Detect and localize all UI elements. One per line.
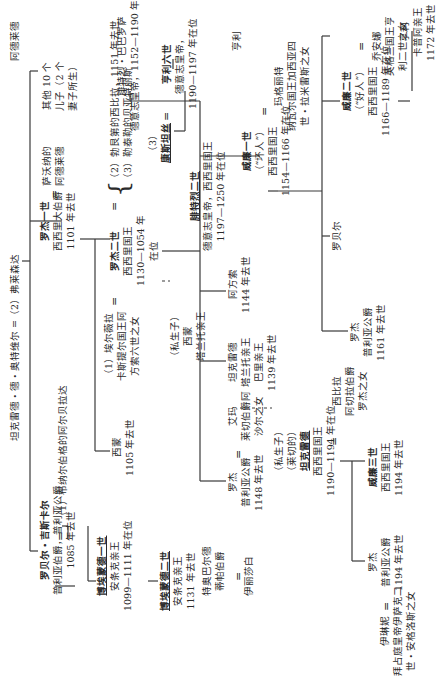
- node-roger-1161: 罗杰 普利亚公爵 1161 年去世: [348, 304, 387, 361]
- node-elvira: （1）埃尔薇拉 卡斯提尔国王阿 方索六世之女: [102, 311, 141, 381]
- roger1161-name: 罗杰: [348, 304, 361, 361]
- william2-epithet: （“好人”）: [353, 45, 366, 136]
- william2-name: 威廉二世: [340, 45, 353, 136]
- constance-name: 康斯坦丝: [159, 123, 172, 163]
- node-robert: 罗贝尔: [330, 221, 343, 251]
- roger1148-name: 罗杰: [226, 454, 239, 511]
- elvira-line2: 卡斯提尔国王阿: [115, 311, 128, 381]
- sibylla-line2: 阿切拉伯爵: [343, 366, 356, 416]
- elvira-name: （1）埃尔薇拉: [102, 311, 115, 381]
- frederick2-name: 腓特烈二世: [188, 141, 201, 251]
- bohemond2-title: 安条克亲王: [171, 551, 184, 611]
- barbarossa-name: 腓特烈・巴巴罗萨: [115, 0, 128, 131]
- node-elizabeth: 伊丽莎白: [242, 556, 255, 596]
- node-sibylla: 西比拉 阿切拉伯爵 罗杰之女: [330, 366, 369, 416]
- node-henry-top: 亨利: [230, 31, 243, 51]
- irene-line3: 世・安格洛斯之女: [404, 586, 417, 676]
- marriage-sign: =: [355, 42, 368, 51]
- node-simon-illegitimate: （私生子） 西蒙 塔兰托亲王: [168, 311, 207, 361]
- simon-illeg-name: 西蒙: [181, 311, 194, 361]
- node-tancred-lecce: （私生子） （莱切的） 坦克雷德 西西里国王 1190—1194 年在位: [272, 405, 337, 496]
- node-roger2: 罗杰二世 西西里国王 1130—1054 年 在位: [108, 215, 160, 286]
- tancred-lecce-note1: （私生子）: [272, 405, 285, 496]
- other-sons-line1: 其他 10 个: [40, 61, 53, 111]
- node-alberada: （1）布纳尔伯格的阿尔贝拉达: [56, 385, 69, 521]
- alfonso-name: 阿方索: [226, 256, 239, 313]
- roger1148-death: 1148 年去世: [252, 454, 265, 511]
- william3-title: 西西里国王: [379, 439, 392, 496]
- bohemond2-name: 博埃蒙德二世: [158, 551, 171, 611]
- marriage-sign: =: [108, 202, 121, 211]
- node-roger1: 罗杰一世 西西里大伯爵 1101 年去世: [38, 191, 77, 251]
- alberada-label: （1）布纳尔伯格的阿尔贝拉达: [56, 385, 69, 521]
- sibylla-name: 西比拉: [330, 366, 343, 416]
- roger1194-title: 普利亚公爵: [379, 534, 392, 591]
- bohemond1-title: 安条克亲王: [108, 520, 121, 611]
- william1-epithet: （“坏人”）: [253, 105, 266, 196]
- roger1161-death: 1161 年去世: [374, 304, 387, 361]
- bohemond2-death: 1131 年去世: [184, 551, 197, 611]
- node-other-sons: 其他 10 个 儿子（2 个 妻子所生）: [40, 61, 79, 111]
- emma-line3: 沙尔之女: [252, 391, 265, 441]
- william3-name: 威廉三世: [366, 439, 379, 496]
- node-margaret: 玛格丽特 纳瓦尔国王加西亚四 世・拉米雷斯之女: [272, 41, 311, 131]
- simon-illeg-note: （私生子）: [168, 311, 181, 361]
- node-bohemond1: 博埃蒙德一世 安条克亲王 1099—1111 年在位: [95, 520, 134, 611]
- node-irene: 伊琳妮 拜占庭皇帝伊萨克二 世・安格洛斯之女: [378, 586, 417, 676]
- marriage-sign: =: [108, 297, 121, 306]
- roger1-death: 1101 年去世: [64, 191, 77, 251]
- node-roger-1194: 罗杰 普利亚公爵 1194 年去世: [366, 534, 405, 591]
- theobald-title: 蒂帕伯爵: [213, 546, 226, 596]
- constance-note: （3）: [146, 123, 159, 163]
- tancred-taranto-title2: 巴里亲王: [252, 334, 265, 391]
- irene-line2: 拜占庭皇帝伊萨克二: [391, 586, 404, 676]
- adelaide-line2: 阿德莱德: [53, 146, 66, 186]
- tancred-taranto-name: 坦克雷德: [226, 334, 239, 391]
- roger2-reign2: 在位: [147, 215, 160, 286]
- tancred-taranto-title: 塔兰托亲王: [239, 334, 252, 391]
- joanna-line2: 英格兰国王亨: [383, 16, 396, 76]
- irene-name: 伊琳妮: [378, 586, 391, 676]
- margaret-name: 玛格丽特: [272, 41, 285, 131]
- tancred-lecce-title: 西西里国王: [311, 405, 324, 496]
- henry-name: 亨利: [230, 31, 243, 51]
- tancred-lecce-name: 坦克雷德: [298, 405, 311, 496]
- frederick2-title: 德意志皇帝，西西里国王: [201, 141, 214, 251]
- henry-capua-death: 1172 年去世: [424, 4, 437, 61]
- emma-name: 艾玛: [226, 391, 239, 441]
- henry6-name: 亨利六世: [160, 18, 173, 109]
- node-simon: 西蒙 1105 年去世: [110, 419, 136, 476]
- node-bohemond2: 博埃蒙德二世 安条克亲王 1131 年去世: [158, 551, 197, 611]
- margaret-line2: 纳瓦尔国王加西亚四: [285, 41, 298, 131]
- margaret-line3: 世・拉米雷斯之女: [298, 41, 311, 131]
- marriage-sign: =: [160, 112, 173, 121]
- node-adelaide: 萨沃纳的 阿德莱德: [40, 146, 66, 186]
- william1-name: 威廉一世: [240, 105, 253, 196]
- node-adelaide2: 阿德莱德: [8, 21, 21, 61]
- elizabeth-name: 伊丽莎白: [242, 556, 255, 596]
- marriage-sign: =: [258, 107, 271, 116]
- node-frederick2: 腓特烈二世 德意志皇帝，西西里国王 1197—1250 年在位: [188, 141, 227, 251]
- tancred-label: 坦克雷德・德・奥特维尔 =（2）弗莱森达: [8, 254, 21, 441]
- henry6-reign: 1190—1197 年在位: [186, 18, 199, 109]
- henry6-title: 德意志皇帝，: [173, 18, 186, 109]
- roger1-title: 西西里大伯爵: [51, 191, 64, 251]
- robert-guiscard-name: 罗贝尔・吉斯卡尔: [38, 485, 51, 595]
- node-tancred-taranto: 坦克雷德 塔兰托亲王 巴里亲王 1139 年去世: [226, 334, 278, 391]
- frederick2-reign: 1197—1250 年在位: [214, 141, 227, 251]
- sibylla-line3: 罗杰之女: [356, 366, 369, 416]
- bohemond1-name: 博埃蒙德一世: [95, 520, 108, 611]
- simon-death: 1105 年去世: [123, 419, 136, 476]
- barbarossa-title: 德意志皇帝，1152—1190 年在位: [128, 0, 141, 131]
- marriage-sign: =: [328, 437, 341, 446]
- node-emma: 艾玛 莱切伯爵阿 沙尔之女: [226, 391, 265, 441]
- marriage-sign: =: [232, 450, 245, 459]
- tancred-taranto-death: 1139 年去世: [265, 334, 278, 391]
- roger1194-name: 罗杰: [366, 534, 379, 591]
- simon-illeg-title: 塔兰托亲王: [194, 311, 207, 361]
- node-constance: （3） 康斯坦丝: [146, 123, 172, 163]
- tancred-lecce-reign: 1190—1194 年在位: [324, 405, 337, 496]
- roger1-name: 罗杰一世: [38, 191, 51, 251]
- joanna-name: 乔安娜: [370, 16, 383, 76]
